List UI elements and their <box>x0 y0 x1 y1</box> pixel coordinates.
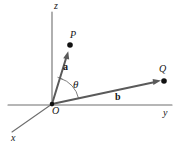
point-P-label: P <box>70 30 76 40</box>
vector-b-shaft <box>52 82 154 104</box>
x-axis-label: x <box>11 133 15 143</box>
point-Q-label: Q <box>159 64 166 74</box>
z-axis-label: z <box>54 1 58 11</box>
y-axis-label: y <box>163 108 167 118</box>
vector-a-arrowhead <box>63 51 69 59</box>
vector-b-label: b <box>115 92 121 102</box>
vector-angle-diagram: z y x O P Q a b θ <box>0 0 179 146</box>
angle-theta-label: θ <box>73 79 78 90</box>
point-Q-dot <box>161 78 167 84</box>
diagram-canvas <box>0 0 179 146</box>
point-P-dot <box>67 42 73 48</box>
vector-b-arrowhead <box>153 79 161 85</box>
origin-label: O <box>52 106 59 116</box>
vector-a-label: a <box>63 62 68 72</box>
x-axis-line <box>12 104 52 132</box>
